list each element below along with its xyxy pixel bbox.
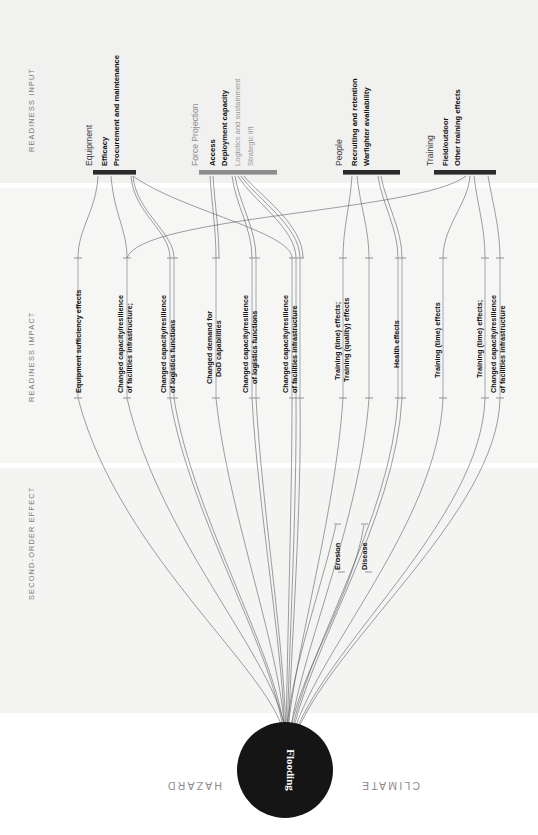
impact-label-i9[interactable]: Health effects (392, 320, 401, 368)
group-bar-equipment[interactable] (93, 170, 136, 175)
impact-label-i6-line1[interactable]: Changed capacity/resilience (281, 295, 290, 393)
input-item-field-outdoor[interactable]: Field/outdoor (441, 117, 450, 166)
input-item-efficacy[interactable]: Efficacy (100, 136, 109, 166)
input-item-logistics-and-sustainment[interactable]: Logistics and sustainment (233, 78, 242, 166)
climate-hazard-readiness-diagram: READINESS INPUT READINESS IMPACT SECOND-… (0, 0, 538, 835)
band-gap-1 (0, 183, 538, 188)
input-item-access[interactable]: Access (208, 139, 217, 166)
impact-label-i5-line1[interactable]: Changed capacity/resilience (241, 295, 250, 393)
group-title-training[interactable]: Training (425, 135, 435, 166)
impact-label-i3-line2[interactable]: of logistics functions (168, 320, 177, 393)
band-label-readiness-input: READINESS INPUT (27, 68, 36, 152)
second-order-label-disease[interactable]: Disease (360, 542, 369, 570)
impact-label-i5-line2[interactable]: of logistics functions (250, 311, 259, 384)
input-item-deployment-capacity[interactable]: Deployment capacity (220, 89, 229, 166)
group-title-people[interactable]: People (334, 139, 344, 166)
band-gap-2 (0, 463, 538, 468)
group-bar-training[interactable] (434, 170, 496, 175)
hub-label-flooding[interactable]: Flooding (285, 749, 297, 791)
hazard-word-label: HAZARD (166, 780, 222, 792)
impact-label-i8[interactable]: Training (quality) effects (342, 298, 351, 382)
impact-label-i11[interactable]: Training (time) effects; (475, 300, 484, 378)
impact-label-i7[interactable]: Training (time) effects; (333, 302, 342, 380)
climate-category-label: CLIMATE (360, 780, 420, 792)
input-item-strategic-lift[interactable]: Strategic lift (246, 125, 255, 166)
impact-label-i2-line2[interactable]: of facilities infrastructure; (125, 303, 134, 393)
figure-canvas: READINESS INPUT READINESS IMPACT SECOND-… (0, 0, 538, 835)
hub-circle[interactable] (237, 722, 333, 818)
input-item-warfighter-availability[interactable]: Warfighter availability (362, 87, 371, 166)
impact-label-i2-line1[interactable]: Changed capacity/resilience (116, 295, 125, 393)
group-title-equipment[interactable]: Equipment (84, 124, 94, 166)
input-item-other-training-effects[interactable]: Other training effects (453, 89, 462, 166)
second-order-label-erosion[interactable]: Erosion (333, 543, 342, 570)
band-label-group: READINESS INPUT READINESS IMPACT SECOND-… (27, 68, 36, 600)
impact-label-i4-line2[interactable]: DoD capabilities (214, 320, 223, 377)
band-label-readiness-impact: READINESS IMPACT (27, 311, 36, 402)
input-item-recruiting-and-retention[interactable]: Recruiting and retention (350, 78, 359, 166)
group-bar-people[interactable] (343, 170, 400, 175)
impact-label-i10[interactable]: Training (time) effects (433, 302, 442, 378)
hazard-hub[interactable]: Flooding (237, 722, 333, 818)
impact-label-i4-line1[interactable]: Changed demand for (205, 311, 214, 384)
impact-label-i12-line1[interactable]: Changed capacity/resilience (489, 295, 498, 393)
impact-label-i12-line2[interactable]: of facilities infrastructure (498, 305, 507, 393)
impact-label-i6-line2[interactable]: of facilities infrastructure (290, 305, 299, 393)
band-label-second-order-effect: SECOND-ORDER EFFECT (27, 487, 36, 600)
impact-label-i3-line1[interactable]: Changed capacity/resilience (159, 295, 168, 393)
group-bar-force-projection[interactable] (199, 170, 277, 175)
impact-label-i1[interactable]: Equipment sufficiency effects (74, 290, 83, 393)
group-title-force-projection[interactable]: Force Projection (190, 103, 200, 166)
input-item-procurement-and-maintenance[interactable]: Procurement and maintenance (112, 55, 121, 166)
